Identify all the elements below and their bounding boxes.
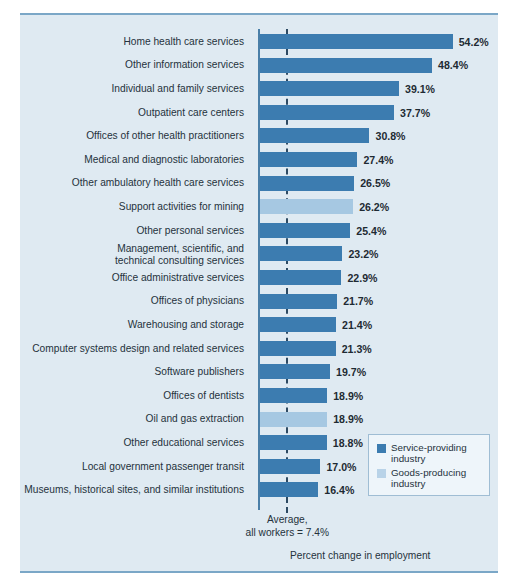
category-label: Medical and diagnostic laboratories bbox=[16, 154, 252, 165]
chart-row: Home health care services54.2% bbox=[0, 30, 510, 54]
bar-service bbox=[260, 223, 350, 238]
bar-goods bbox=[260, 412, 327, 427]
chart-row: Other personal services25.4% bbox=[0, 219, 510, 243]
bar-service bbox=[260, 176, 354, 191]
bar-value-label: 26.2% bbox=[359, 201, 389, 213]
category-label: Other educational services bbox=[16, 437, 252, 448]
bar-value-label: 37.7% bbox=[400, 107, 430, 119]
bar-service bbox=[260, 482, 318, 497]
bar-service bbox=[260, 270, 341, 285]
category-label: Support activities for mining bbox=[16, 201, 252, 212]
average-annotation: Average, all workers = 7.4% bbox=[246, 513, 330, 539]
category-label: Other personal services bbox=[16, 225, 252, 236]
bar-service bbox=[260, 152, 357, 167]
plot-area: Home health care services54.2%Other info… bbox=[0, 0, 510, 587]
bar-service bbox=[260, 435, 327, 450]
chart-row: Oil and gas extraction18.9% bbox=[0, 408, 510, 432]
chart-figure: Home health care services54.2%Other info… bbox=[0, 0, 510, 587]
category-label: Home health care services bbox=[16, 36, 252, 47]
category-label: Offices of dentists bbox=[16, 390, 252, 401]
bar-value-label: 39.1% bbox=[405, 83, 435, 95]
category-label: Other information services bbox=[16, 60, 252, 71]
legend-swatch-goods-icon bbox=[377, 469, 386, 478]
category-label: Management, scientific, and technical co… bbox=[16, 243, 252, 266]
bar-service bbox=[260, 34, 453, 49]
chart-row: Software publishers19.7% bbox=[0, 360, 510, 384]
category-label: Warehousing and storage bbox=[16, 319, 252, 330]
chart-row: Management, scientific, and technical co… bbox=[0, 242, 510, 266]
category-label: Office administrative services bbox=[16, 272, 252, 283]
bar-value-label: 18.8% bbox=[333, 437, 363, 449]
chart-row: Warehousing and storage21.4% bbox=[0, 313, 510, 337]
bar-service bbox=[260, 341, 336, 356]
bar-value-label: 23.2% bbox=[348, 248, 378, 260]
legend-item-service: Service-providing industry bbox=[377, 442, 487, 464]
bar-value-label: 16.4% bbox=[324, 484, 354, 496]
bar-value-label: 27.4% bbox=[363, 154, 393, 166]
category-label: Offices of other health practitioners bbox=[16, 130, 252, 141]
bar-service bbox=[260, 294, 337, 309]
chart-row: Outpatient care centers37.7% bbox=[0, 101, 510, 125]
legend-label-goods: Goods-producing industry bbox=[391, 467, 487, 489]
bar-service bbox=[260, 459, 320, 474]
chart-legend: Service-providing industry Goods-produci… bbox=[368, 434, 490, 496]
bar-value-label: 18.9% bbox=[333, 413, 363, 425]
category-label: Software publishers bbox=[16, 366, 252, 377]
bar-value-label: 21.3% bbox=[342, 343, 372, 355]
legend-swatch-service-icon bbox=[377, 444, 386, 453]
bar-service bbox=[260, 364, 330, 379]
category-label: Other ambulatory health care services bbox=[16, 178, 252, 189]
bar-service bbox=[260, 81, 399, 96]
category-label: Museums, historical sites, and similar i… bbox=[16, 484, 252, 495]
chart-row: Office administrative services22.9% bbox=[0, 266, 510, 290]
chart-row: Offices of other health practitioners30.… bbox=[0, 124, 510, 148]
x-axis-title: Percent change in employment bbox=[290, 550, 430, 561]
bar-service bbox=[260, 128, 369, 143]
bar-value-label: 48.4% bbox=[438, 59, 468, 71]
chart-row: Offices of physicians21.7% bbox=[0, 290, 510, 314]
chart-row: Other ambulatory health care services26.… bbox=[0, 172, 510, 196]
bar-value-label: 25.4% bbox=[356, 225, 386, 237]
bar-value-label: 18.9% bbox=[333, 390, 363, 402]
chart-row: Individual and family services39.1% bbox=[0, 77, 510, 101]
bar-service bbox=[260, 317, 336, 332]
bar-service bbox=[260, 246, 342, 261]
category-label: Oil and gas extraction bbox=[16, 414, 252, 425]
chart-row: Computer systems design and related serv… bbox=[0, 337, 510, 361]
bar-value-label: 22.9% bbox=[347, 272, 377, 284]
bar-value-label: 21.4% bbox=[342, 319, 372, 331]
bar-value-label: 17.0% bbox=[326, 461, 356, 473]
bar-service bbox=[260, 388, 327, 403]
category-label: Outpatient care centers bbox=[16, 107, 252, 118]
chart-row: Offices of dentists18.9% bbox=[0, 384, 510, 408]
chart-row: Medical and diagnostic laboratories27.4% bbox=[0, 148, 510, 172]
bar-service bbox=[260, 105, 394, 120]
legend-label-service: Service-providing industry bbox=[391, 442, 487, 464]
bar-service bbox=[260, 58, 432, 73]
category-label: Individual and family services bbox=[16, 83, 252, 94]
category-label: Offices of physicians bbox=[16, 296, 252, 307]
bar-value-label: 54.2% bbox=[459, 36, 489, 48]
bar-goods bbox=[260, 199, 353, 214]
bar-value-label: 26.5% bbox=[360, 177, 390, 189]
chart-row: Support activities for mining26.2% bbox=[0, 195, 510, 219]
legend-item-goods: Goods-producing industry bbox=[377, 467, 487, 489]
bar-value-label: 19.7% bbox=[336, 366, 366, 378]
bar-value-label: 30.8% bbox=[375, 130, 405, 142]
chart-row: Other information services48.4% bbox=[0, 54, 510, 78]
category-label: Local government passenger transit bbox=[16, 461, 252, 472]
bar-value-label: 21.7% bbox=[343, 295, 373, 307]
category-label: Computer systems design and related serv… bbox=[16, 343, 252, 354]
